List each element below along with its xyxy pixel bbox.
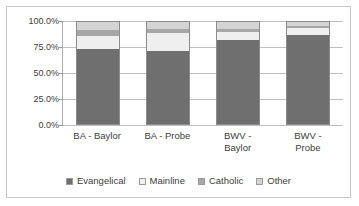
y-axis-tickmark	[59, 125, 63, 126]
legend-label: Catholic	[209, 176, 243, 186]
bar-slot	[203, 21, 273, 125]
bar-group	[63, 21, 343, 125]
y-axis-tick-label: 50.0%	[11, 69, 59, 78]
bar-segment-mainline[interactable]	[217, 32, 259, 40]
y-axis-tick-label: 25.0%	[11, 95, 59, 104]
x-axis-labels: BA - BaylorBA - ProbeBWV -BaylorBWV -Pro…	[62, 127, 343, 169]
legend-item[interactable]: Other	[256, 176, 291, 186]
x-axis-label-line: BWV -	[274, 130, 342, 142]
bar-segment-mainline[interactable]	[77, 36, 119, 49]
bar-segment-mainline[interactable]	[287, 28, 329, 35]
x-axis-category-label: BWV -Probe	[273, 127, 343, 169]
plot-area	[62, 21, 343, 125]
stacked-bar[interactable]	[146, 21, 190, 125]
stacked-bar[interactable]	[286, 21, 330, 125]
stacked-bar[interactable]	[76, 21, 120, 125]
bar-segment-other[interactable]	[147, 22, 189, 29]
x-axis-label-line: BWV -	[204, 130, 272, 142]
legend-label: Other	[267, 176, 291, 186]
bar-segment-other[interactable]	[217, 22, 259, 29]
legend-swatch-icon	[198, 178, 205, 185]
legend-swatch-icon	[66, 178, 73, 185]
legend-swatch-icon	[139, 178, 146, 185]
gridline	[63, 125, 343, 126]
bar-segment-evangelical[interactable]	[147, 51, 189, 124]
chart-legend: EvangelicalMainlineCatholicOther	[7, 171, 350, 191]
bar-slot	[273, 21, 343, 125]
y-axis: 100.0%75.0%50.0%25.0%0.0%	[11, 21, 59, 125]
legend-item[interactable]: Evangelical	[66, 176, 126, 186]
legend-item[interactable]: Catholic	[198, 176, 243, 186]
bar-slot	[63, 21, 133, 125]
legend-item[interactable]: Mainline	[139, 176, 185, 186]
x-axis-label-line: BA - Baylor	[63, 130, 131, 142]
bar-segment-evangelical[interactable]	[77, 49, 119, 124]
bar-segment-mainline[interactable]	[147, 33, 189, 51]
legend-label: Evangelical	[77, 176, 126, 186]
stacked-bar[interactable]	[216, 21, 260, 125]
bar-slot	[133, 21, 203, 125]
y-axis-tick-label: 0.0%	[11, 121, 59, 130]
bar-segment-evangelical[interactable]	[217, 40, 259, 124]
x-axis-label-line: Baylor	[204, 142, 272, 154]
legend-label: Mainline	[150, 176, 185, 186]
x-axis-category-label: BA - Probe	[132, 127, 202, 169]
y-axis-tick-label: 100.0%	[11, 17, 59, 26]
x-axis-category-label: BWV -Baylor	[203, 127, 273, 169]
x-axis-category-label: BA - Baylor	[62, 127, 132, 169]
chart-container: 100.0%75.0%50.0%25.0%0.0% BA - BaylorBA …	[6, 6, 351, 198]
bar-segment-other[interactable]	[77, 22, 119, 30]
y-axis-tick-label: 75.0%	[11, 43, 59, 52]
legend-swatch-icon	[256, 178, 263, 185]
x-axis-label-line: Probe	[274, 142, 342, 154]
bar-segment-evangelical[interactable]	[287, 35, 329, 124]
x-axis-label-line: BA - Probe	[133, 130, 201, 142]
